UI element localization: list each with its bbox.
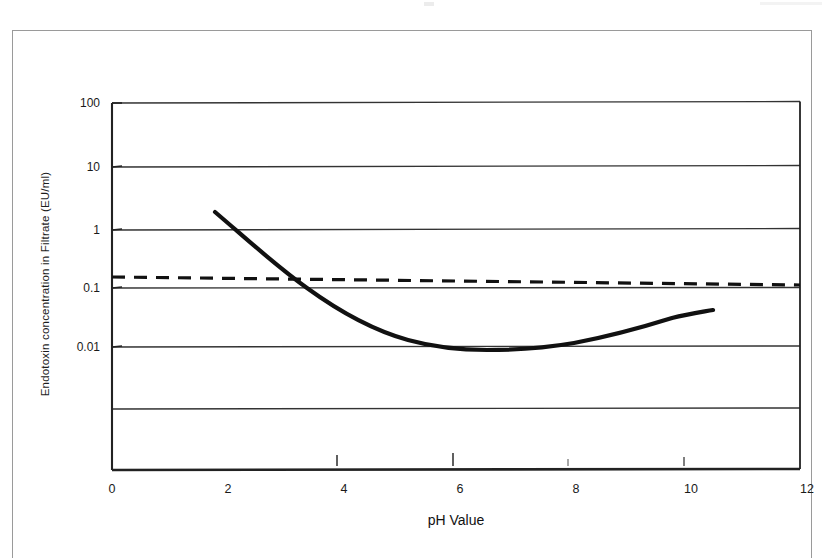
gridline-0.001	[112, 408, 800, 409]
gridline-1	[112, 229, 800, 231]
y-tick-marks	[112, 103, 122, 347]
y-gridlines	[112, 102, 800, 410]
gridline-100	[112, 102, 800, 104]
figure-page: 100 10 1 0.1 0.01 0 2 4 6 8 10 12 Endoto…	[0, 0, 837, 558]
gridline-10	[112, 166, 800, 168]
y-tick-label-10: 10	[44, 160, 100, 174]
y-axis-title: Endotoxin concentration in Filtrate (EU/…	[39, 119, 51, 449]
y-tick-label-100: 100	[44, 96, 100, 110]
y-tick-1	[112, 229, 122, 230]
y-tick-0.1	[112, 287, 122, 288]
x-minor-ticks	[337, 453, 684, 466]
x-tick-label-4: 4	[329, 482, 359, 496]
x-tick-label-2: 2	[213, 482, 243, 496]
reference-limit-dashed-line	[112, 277, 800, 285]
x-tick-label-8: 8	[561, 482, 591, 496]
x-axis-title: pH Value	[112, 512, 800, 528]
x-tick-label-0: 0	[97, 482, 127, 496]
gridline-0.1	[112, 288, 800, 289]
y-tick-label-1: 1	[44, 223, 100, 237]
x-tick-label-6: 6	[445, 482, 475, 496]
chart-figure: 100 10 1 0.1 0.01 0 2 4 6 8 10 12 Endoto…	[0, 0, 837, 558]
plot-frame	[112, 102, 800, 471]
y-tick-label-0.1: 0.1	[44, 281, 100, 295]
y-tick-10	[112, 166, 122, 167]
chart-plot-svg	[0, 0, 837, 558]
x-tick-label-12: 12	[792, 482, 822, 496]
axis-x-bottom	[112, 469, 800, 470]
y-tick-0.01	[112, 346, 122, 347]
y-tick-label-0.01: 0.01	[44, 340, 100, 354]
x-tick-label-10: 10	[676, 482, 706, 496]
